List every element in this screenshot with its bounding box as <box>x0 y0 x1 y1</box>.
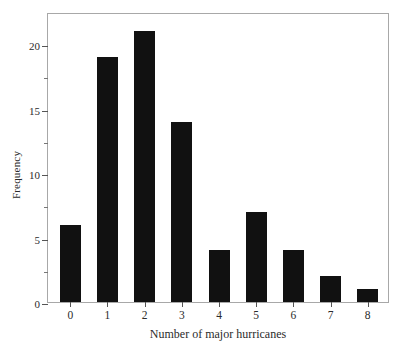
y-axis-tick-label: 20 <box>29 41 40 52</box>
y-axis-tick-label: 5 <box>35 234 41 245</box>
x-axis-tick-label: 8 <box>365 310 371 322</box>
x-axis-tick-label: 6 <box>290 310 296 322</box>
x-axis-tick-mark <box>331 302 332 307</box>
bar <box>320 276 341 302</box>
bar <box>357 289 378 302</box>
x-axis-tick-mark <box>368 302 369 307</box>
bar <box>134 31 155 302</box>
bar <box>246 212 267 302</box>
plot-area: 05101520 012345678 <box>47 13 389 303</box>
x-axis-tick-label: 4 <box>216 310 222 322</box>
bar <box>283 250 304 302</box>
y-axis-title-text: Frequency <box>10 151 22 199</box>
x-axis-tick-label: 5 <box>253 310 259 322</box>
x-axis-tick-mark <box>70 302 71 307</box>
x-axis-tick-mark <box>293 302 294 307</box>
x-axis-tick-label: 3 <box>179 310 185 322</box>
x-axis-title: Number of major hurricanes <box>47 327 389 342</box>
x-axis-tick-label: 2 <box>142 310 148 322</box>
x-axis-tick-mark <box>219 302 220 307</box>
hurricane-frequency-bar-chart: Frequency 05101520 012345678 Number of m… <box>0 0 406 357</box>
x-axis-tick-label: 1 <box>105 310 111 322</box>
y-axis-tick-label: 10 <box>29 170 40 181</box>
x-axis-tick-mark <box>107 302 108 307</box>
x-axis-tick-mark <box>256 302 257 307</box>
bar <box>97 57 118 302</box>
y-axis-title: Frequency <box>6 130 26 220</box>
x-axis-tick-mark <box>145 302 146 307</box>
y-axis-tick-label: 15 <box>29 105 40 116</box>
x-axis-tick-label: 7 <box>328 310 334 322</box>
y-axis-tick-mark <box>42 304 48 305</box>
bar <box>209 250 230 302</box>
x-axis-tick-mark <box>182 302 183 307</box>
x-axis-tick-label: 0 <box>67 310 73 322</box>
bar <box>171 122 192 302</box>
y-axis-tick-label: 0 <box>35 299 41 310</box>
bars-group <box>48 14 388 302</box>
bar <box>60 225 81 302</box>
